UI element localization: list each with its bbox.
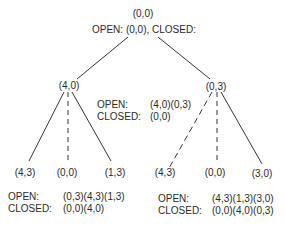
left-open-label: OPEN: [8,191,39,202]
leaf-node-label: (4,3) [155,167,176,178]
right-closed-value: (0,0)(4,0)(0,3) [212,205,274,216]
root-status: OPEN: (0,0), CLOSED: [92,24,196,35]
level1-closed-value: (0,0) [150,111,171,122]
right-open-label: OPEN: [158,193,189,204]
leaf-node-label: (4,3) [15,167,36,178]
level1-closed-label: CLOSED: [97,111,141,122]
leaf-node-label: (3,0) [252,168,273,179]
left-closed-label: CLOSED: [8,203,52,214]
left-open-value: (0,3)(4,3)(1,3) [63,191,125,202]
edge-root-to-0-3 [158,37,210,79]
node-0-3-label: (0,3) [206,81,227,92]
edge-root-to-4-0 [77,37,128,79]
edge-4-0-to-4-3 [29,92,64,161]
right-closed-label: CLOSED: [158,205,202,216]
leaf-node-label: (1,3) [105,167,126,178]
node-4-0-label: (4,0) [59,80,80,91]
right-open-value: (4,3)(1,3)(3,0) [212,193,274,204]
level1-open-label: OPEN: [97,99,128,110]
root-node-label: (0,0) [133,8,154,19]
edge-0-3-to-3-0 [221,92,262,164]
level1-open-value: (4,0)(0,3) [150,99,191,110]
left-closed-value: (0,0)(4,0) [63,203,104,214]
leaf-node-label: (0,0) [205,167,226,178]
leaf-node-label: (0,0) [57,167,78,178]
